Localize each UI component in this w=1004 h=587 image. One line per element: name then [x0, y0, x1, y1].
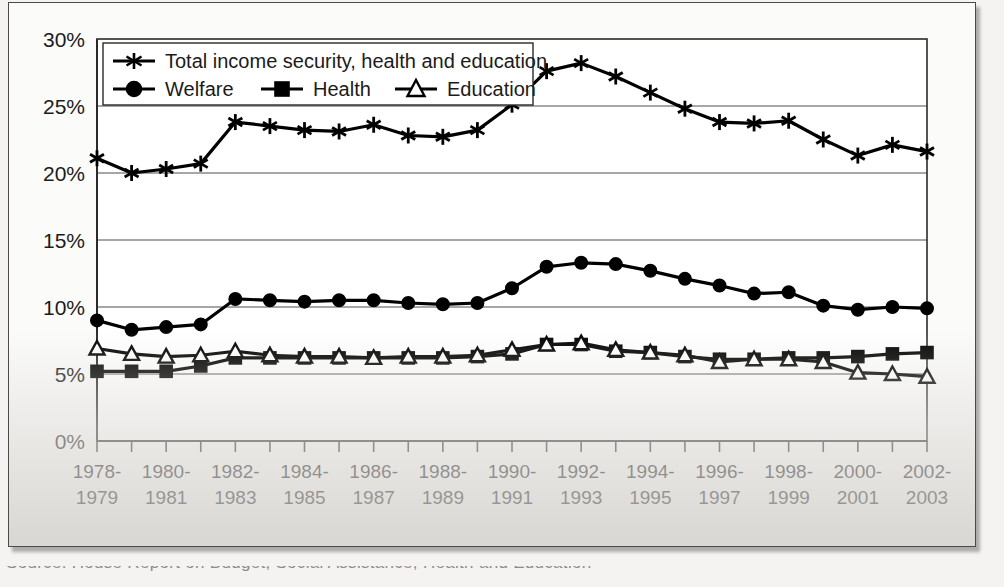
square-marker [852, 351, 864, 363]
circle-marker [748, 287, 760, 299]
circle-marker [644, 265, 656, 277]
x-axis-tick-labels: 1978-19791980-19811982-19831984-19851986… [73, 461, 952, 508]
legend-label-welfare: Welfare [165, 78, 234, 100]
y-axis-tick-label: 10% [43, 296, 85, 319]
x-axis-tick-label-top: 1988- [419, 461, 468, 482]
circle-marker [264, 294, 276, 306]
x-axis-tick-label-top: 1978- [73, 461, 122, 482]
cut-off-caption-strip: Source: House Report on Budget, Social A… [0, 566, 1004, 587]
x-axis-tick-label-top: 1980- [142, 461, 191, 482]
x-axis-tick-label-bottom: 1999 [768, 487, 810, 508]
x-axis-tick-label-bottom: 2001 [837, 487, 879, 508]
legend-label-health: Health [313, 78, 371, 100]
x-axis-tick-label-top: 1994- [626, 461, 675, 482]
x-axis-tick-label-bottom: 2003 [906, 487, 948, 508]
circle-marker [437, 298, 449, 310]
y-axis-tick-label: 20% [43, 162, 85, 185]
legend-entry-welfare: Welfare [113, 78, 234, 100]
circle-marker [886, 301, 898, 313]
legend-entry-education: Education [395, 78, 536, 100]
circle-marker [506, 282, 518, 294]
circle-marker [367, 294, 379, 306]
circle-marker [610, 258, 622, 270]
circle-marker [127, 82, 142, 97]
x-axis-tick-label-bottom: 1997 [698, 487, 740, 508]
circle-marker [782, 286, 794, 298]
y-axis-tick-labels: 0%5%10%15%20%25%30% [43, 28, 85, 453]
y-axis-tick-label: 30% [43, 28, 85, 51]
x-axis-tick-label-top: 1990- [488, 461, 537, 482]
x-axis-tick-label-bottom: 1981 [145, 487, 187, 508]
circle-marker [402, 297, 414, 309]
circle-marker [333, 294, 345, 306]
y-axis-tick-label: 0% [55, 430, 85, 453]
circle-marker [852, 303, 864, 315]
square-marker [921, 347, 933, 359]
square-marker [160, 365, 172, 377]
circle-marker [921, 302, 933, 314]
circle-marker [817, 299, 829, 311]
circle-marker [195, 318, 207, 330]
x-axis-tick-label-top: 2000- [834, 461, 883, 482]
circle-marker [540, 261, 552, 273]
x-axis-tick-label-bottom: 1979 [76, 487, 118, 508]
square-marker [91, 365, 103, 377]
x-axis-tick-label-bottom: 1983 [214, 487, 256, 508]
x-axis-tick-label-top: 1996- [695, 461, 744, 482]
legend-label-total: Total income security, health and educat… [165, 50, 547, 72]
circle-marker [160, 321, 172, 333]
legend-entry-health: Health [261, 78, 371, 100]
line-chart: 0%5%10%15%20%25%30% 1978-19791980-198119… [9, 3, 975, 545]
scanned-page: 0%5%10%15%20%25%30% 1978-19791980-198119… [0, 0, 1004, 587]
circle-marker [91, 314, 103, 326]
square-marker [886, 348, 898, 360]
x-axis-tick-label-bottom: 1993 [560, 487, 602, 508]
x-axis-tick-label-top: 1984- [280, 461, 329, 482]
y-axis-tick-label: 5% [55, 363, 85, 386]
circle-marker [713, 279, 725, 291]
x-axis-tick-label-bottom: 1989 [422, 487, 464, 508]
y-axis-tick-label: 25% [43, 95, 85, 118]
x-axis-tick-label-top: 1982- [211, 461, 260, 482]
x-axis-tick-label-bottom: 1987 [353, 487, 395, 508]
legend-label-education: Education [447, 78, 536, 100]
square-marker [126, 365, 138, 377]
x-axis-tick-label-top: 1998- [764, 461, 813, 482]
circle-marker [679, 273, 691, 285]
circle-marker [471, 297, 483, 309]
x-axis-tick-label-bottom: 1995 [629, 487, 671, 508]
y-axis-tick-label: 15% [43, 229, 85, 252]
chart-figure-frame: 0%5%10%15%20%25%30% 1978-19791980-198119… [8, 2, 976, 547]
square-marker [275, 82, 289, 96]
x-axis-tick-label-top: 1992- [557, 461, 606, 482]
circle-marker [125, 324, 137, 336]
x-axis-tick-label-bottom: 1991 [491, 487, 533, 508]
x-axis-tick-label-bottom: 1985 [283, 487, 325, 508]
chart-legend: Total income security, health and educat… [103, 43, 547, 105]
x-axis-tick-marks [97, 441, 927, 452]
circle-marker [575, 257, 587, 269]
legend-entry-total: Total income security, health and educat… [113, 50, 547, 72]
circle-marker [229, 293, 241, 305]
x-axis-tick-label-top: 2002- [903, 461, 952, 482]
caption-text: Source: House Report on Budget, Social A… [6, 566, 591, 573]
x-axis-tick-label-top: 1986- [349, 461, 398, 482]
circle-marker [298, 295, 310, 307]
